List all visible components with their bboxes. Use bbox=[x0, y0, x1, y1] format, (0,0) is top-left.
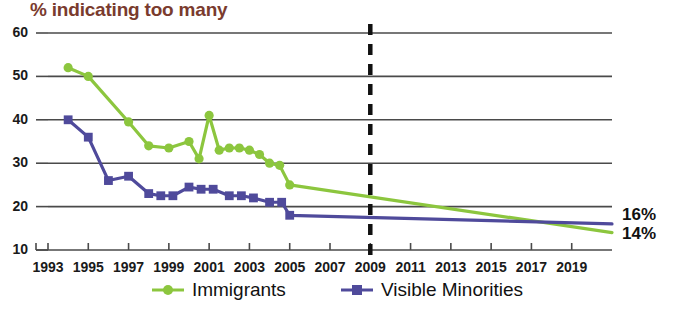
x-axis-label-2001: 2001 bbox=[189, 259, 229, 275]
data-point-immigrants-1999 bbox=[164, 143, 173, 152]
data-point-immigrants-2000 bbox=[184, 137, 193, 146]
data-point-visible-minorities-1995 bbox=[84, 133, 93, 142]
y-axis-label-50: 50 bbox=[2, 67, 28, 83]
legend-item-immigrants[interactable]: Immigrants bbox=[151, 279, 286, 301]
x-axis-label-2019: 2019 bbox=[552, 259, 592, 275]
data-point-visible-minorities-1998.6 bbox=[156, 191, 165, 200]
data-point-immigrants-2000.5 bbox=[194, 154, 203, 163]
data-point-immigrants-2004.5 bbox=[275, 161, 284, 170]
data-point-immigrants-1997 bbox=[124, 117, 133, 126]
x-axis-label-2015: 2015 bbox=[471, 259, 511, 275]
x-axis-label-1997: 1997 bbox=[109, 259, 149, 275]
legend-label-visible-minorities: Visible Minorities bbox=[381, 279, 523, 301]
y-tick-marks bbox=[36, 33, 48, 250]
data-point-visible-minorities-2001.2 bbox=[209, 185, 218, 194]
y-axis-label-10: 10 bbox=[2, 241, 28, 257]
data-point-immigrants-1998 bbox=[144, 141, 153, 150]
y-axis-label-20: 20 bbox=[2, 198, 28, 214]
y-axis-label-60: 60 bbox=[2, 24, 28, 40]
x-axis-label-2017: 2017 bbox=[511, 259, 551, 275]
data-point-visible-minorities-2000 bbox=[185, 183, 194, 192]
x-axis-label-2011: 2011 bbox=[391, 259, 431, 275]
x-axis-label-1999: 1999 bbox=[149, 259, 189, 275]
chart-title: % indicating too many bbox=[30, 0, 227, 21]
immigrants-end-label: 14% bbox=[622, 224, 656, 244]
x-axis-label-2003: 2003 bbox=[229, 259, 269, 275]
data-point-immigrants-1995 bbox=[84, 72, 93, 81]
data-point-immigrants-2002 bbox=[225, 143, 234, 152]
data-point-visible-minorities-2000.6 bbox=[197, 185, 206, 194]
series-line-visible-minorities bbox=[68, 120, 612, 224]
data-point-visible-minorities-1997 bbox=[124, 172, 133, 181]
legend-item-visible-minorities[interactable]: Visible Minorities bbox=[340, 279, 523, 301]
data-point-visible-minorities-2004.6 bbox=[277, 198, 286, 207]
x-tick-marks bbox=[48, 243, 572, 250]
data-point-visible-minorities-2002.6 bbox=[237, 191, 246, 200]
x-axis-label-1995: 1995 bbox=[68, 259, 108, 275]
data-point-visible-minorities-1999.2 bbox=[168, 191, 177, 200]
x-axis-label-2013: 2013 bbox=[431, 259, 471, 275]
data-point-visible-minorities-1996 bbox=[104, 176, 113, 185]
y-axis-label-40: 40 bbox=[2, 111, 28, 127]
x-axis-label-1993: 1993 bbox=[28, 259, 68, 275]
x-axis-line bbox=[36, 243, 612, 250]
data-point-immigrants-2003.5 bbox=[255, 150, 264, 159]
y-axis-label-30: 30 bbox=[2, 154, 28, 170]
chart-legend: Immigrants Visible Minorities bbox=[0, 279, 674, 301]
visible-minorities-end-label: 16% bbox=[622, 205, 656, 225]
data-point-visible-minorities-1998 bbox=[144, 189, 153, 198]
data-point-immigrants-2001.5 bbox=[215, 146, 224, 155]
legend-marker-square-icon bbox=[340, 282, 374, 298]
x-axis-label-2005: 2005 bbox=[270, 259, 310, 275]
data-point-immigrants-1994 bbox=[64, 63, 73, 72]
data-point-visible-minorities-2005 bbox=[285, 211, 294, 220]
legend-label-immigrants: Immigrants bbox=[192, 279, 286, 301]
data-point-immigrants-2002.5 bbox=[235, 143, 244, 152]
data-point-visible-minorities-2004 bbox=[265, 198, 274, 207]
data-point-immigrants-2001 bbox=[205, 111, 214, 120]
x-axis-label-2009: 2009 bbox=[350, 259, 390, 275]
data-point-immigrants-2004 bbox=[265, 159, 274, 168]
data-point-visible-minorities-1994 bbox=[64, 115, 73, 124]
data-point-immigrants-2005 bbox=[285, 180, 294, 189]
legend-marker-circle-icon bbox=[151, 282, 185, 298]
data-point-visible-minorities-2003.2 bbox=[249, 194, 258, 203]
x-axis-label-2007: 2007 bbox=[310, 259, 350, 275]
data-point-immigrants-2003 bbox=[245, 146, 254, 155]
chart-container: % indicating too many 102030405060 19931… bbox=[0, 0, 674, 311]
data-point-visible-minorities-2002 bbox=[225, 191, 234, 200]
